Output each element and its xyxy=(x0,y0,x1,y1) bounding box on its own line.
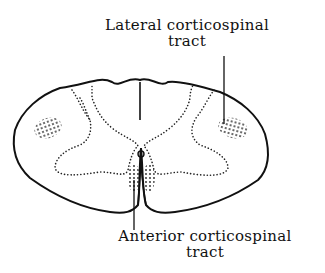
grey-matter-left xyxy=(55,84,138,175)
diagram-figure: Lateral corticospinal tract Anterior cor… xyxy=(0,0,325,273)
grey-matter-left-inner xyxy=(80,98,90,120)
lateral-tract-label: Lateral corticospinal tract xyxy=(72,17,302,49)
cropped-caption-fragment xyxy=(0,266,325,273)
anterior-label-line2: tract xyxy=(90,244,320,260)
lateral-label-line1: Lateral corticospinal xyxy=(72,17,302,33)
lateral-tract-right xyxy=(216,114,250,141)
grey-matter-right xyxy=(144,84,228,175)
lateral-label-line2: tract xyxy=(72,33,302,49)
spinal-cord-outline xyxy=(14,79,268,213)
anterior-tract-right xyxy=(143,164,155,192)
anterior-tract-label: Anterior corticospinal tract xyxy=(90,228,320,260)
lateral-tract-left xyxy=(31,114,64,142)
anterior-label-line1: Anterior corticospinal xyxy=(90,228,320,244)
